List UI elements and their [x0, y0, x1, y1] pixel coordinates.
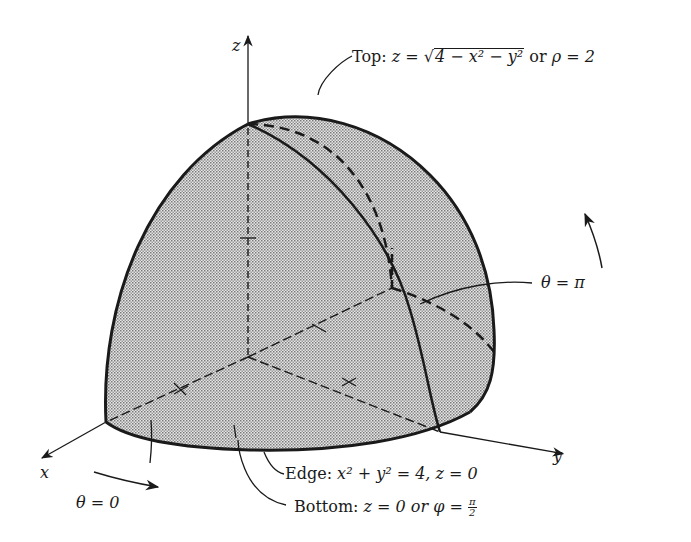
z-axis-label: z [232, 38, 240, 54]
edge-leader [264, 452, 284, 474]
theta-zero-label: θ = 0 [76, 495, 119, 511]
solid-surface [106, 117, 495, 450]
edge-annotation: Edge: x² + y² = 4, z = 0 [285, 466, 478, 482]
top-sqrt-expr: 4 − x² − y² [434, 48, 524, 65]
top-z-eq: z = [392, 47, 424, 66]
bottom-annotation: Bottom: z = 0 or φ = π2 [294, 497, 477, 518]
top-leader [318, 56, 352, 95]
x-axis-label: x [40, 465, 49, 481]
bottom-phi: φ = [433, 497, 468, 516]
y-axis-arrow [440, 432, 563, 454]
theta-direction-arrow [585, 214, 602, 268]
top-rho-eq: ρ = 2 [552, 47, 595, 66]
x-axis-arrow [42, 422, 106, 458]
edge-prefix: Edge: [285, 464, 337, 483]
sqrt-symbol: √ [424, 47, 434, 66]
top-prefix: Top: [352, 47, 392, 66]
top-annotation: Top: z = √4 − x² − y² or ρ = 2 [352, 48, 595, 65]
frac-denominator: 2 [468, 508, 477, 518]
y-axis-label: y [553, 448, 562, 464]
theta-pi-label: θ = π [541, 275, 585, 291]
theta-zero-rotation-arrow [94, 472, 158, 487]
bottom-eq1: z = 0 or [364, 497, 434, 516]
bottom-prefix: Bottom: [294, 497, 364, 516]
pi-over-2-fraction: π2 [468, 497, 477, 518]
top-or: or [524, 47, 551, 66]
edge-equation: x² + y² = 4, z = 0 [337, 464, 478, 483]
quarter-sphere-diagram [0, 0, 691, 542]
